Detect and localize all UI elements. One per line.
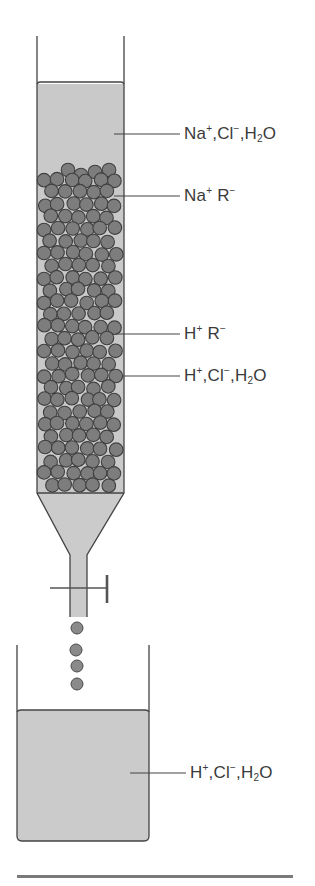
label-column-eluate: H+,Cl−,H2O (184, 366, 267, 386)
bench-line (17, 875, 293, 878)
label-resin-top: Na+ R− (184, 186, 236, 206)
leader-lines (114, 134, 186, 773)
label-top-solution: Na+,Cl−,H2O (184, 124, 276, 144)
beaker-solution (17, 710, 149, 841)
label-resin-lower: H+ R− (184, 324, 226, 344)
label-beaker-solution: H+,Cl−,H2O (190, 763, 273, 783)
funnel-solution (37, 493, 124, 617)
drops (70, 622, 83, 690)
